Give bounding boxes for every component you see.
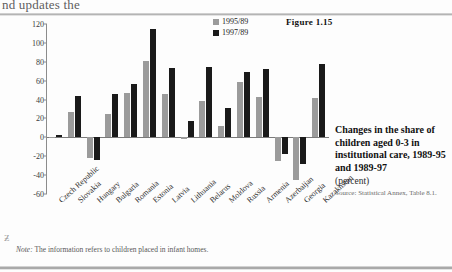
bar <box>87 137 93 158</box>
bar-group <box>310 24 329 194</box>
bar <box>143 61 149 138</box>
legend-swatch-icon <box>213 19 219 25</box>
bar <box>263 69 269 137</box>
bar <box>150 29 156 138</box>
bar <box>131 84 137 137</box>
y-axis-tick-label: 120 <box>32 20 44 29</box>
page-bleed-text: nd updates the <box>2 0 80 13</box>
legend-item: 1997/89 <box>213 28 248 37</box>
top-rule-divider <box>0 13 452 16</box>
bar <box>188 121 194 137</box>
bar <box>94 137 100 160</box>
bar <box>181 137 187 139</box>
bar-group <box>273 24 292 194</box>
bar <box>218 126 224 137</box>
bar <box>275 137 281 161</box>
chart-area: 120100806040200-20-40-60 Czech RepublicS… <box>16 20 332 198</box>
bar <box>237 82 243 138</box>
bar-group <box>254 24 273 194</box>
bottom-rule-divider <box>0 266 452 270</box>
bar-group <box>179 24 198 194</box>
bar <box>225 108 231 137</box>
bar <box>124 93 130 137</box>
bar <box>293 137 299 180</box>
bar-group <box>216 24 235 194</box>
y-axis-tick-label: -40 <box>33 171 44 180</box>
figure-page: nd updates the 120100806040200-20-40-60 … <box>0 0 452 272</box>
caption-source: Source: Statistical Annex, Table 8.1. <box>335 189 447 198</box>
bar-group <box>66 24 85 194</box>
legend-label: 1997/89 <box>222 28 248 37</box>
bar-group <box>235 24 254 194</box>
plot-region: 120100806040200-20-40-60 Czech RepublicS… <box>46 24 328 194</box>
note-text: The information refers to children place… <box>33 245 209 254</box>
bar <box>105 114 111 138</box>
bar <box>56 135 62 138</box>
bar <box>312 98 318 138</box>
bar <box>68 112 74 138</box>
bar <box>256 97 262 138</box>
legend-swatch-icon <box>213 30 219 36</box>
bar <box>75 96 81 138</box>
caption-unit: (percent) <box>335 175 447 187</box>
caption-title: Changes in the share of children aged 0-… <box>335 124 447 174</box>
figure-number: Figure 1.15 <box>286 17 333 27</box>
bar <box>282 137 288 154</box>
legend-item: 1995/89 <box>213 17 248 26</box>
bar <box>112 94 118 137</box>
bar-group <box>197 24 216 194</box>
bar-group <box>103 24 122 194</box>
bar <box>244 72 250 137</box>
y-axis-tick-label: 60 <box>36 76 44 85</box>
note-prefix: Note: <box>16 245 33 254</box>
bar <box>300 137 306 163</box>
bar-group <box>141 24 160 194</box>
bar-group <box>160 24 179 194</box>
y-axis-tick-label: -20 <box>33 152 44 161</box>
bar-group <box>122 24 141 194</box>
figure-note: Note: The information refers to children… <box>16 245 208 254</box>
y-axis-tick-label: 100 <box>32 38 44 47</box>
bar-group <box>291 24 310 194</box>
bar-group <box>47 24 66 194</box>
y-axis-tick-label: -60 <box>33 190 44 199</box>
y-axis-tick-label: 20 <box>36 114 44 123</box>
y-axis-tick-label: 40 <box>36 95 44 104</box>
chart-legend: 1995/891997/89 <box>213 17 248 39</box>
bar <box>162 94 168 137</box>
bar <box>199 101 205 138</box>
figure-caption: Changes in the share of children aged 0-… <box>335 124 447 198</box>
y-axis-tick-label: 80 <box>36 57 44 66</box>
stray-glyph: Ƶ <box>4 233 10 243</box>
bar <box>319 64 325 138</box>
bar <box>169 68 175 137</box>
bar <box>206 67 212 138</box>
bar <box>49 137 55 138</box>
legend-label: 1995/89 <box>222 17 248 26</box>
